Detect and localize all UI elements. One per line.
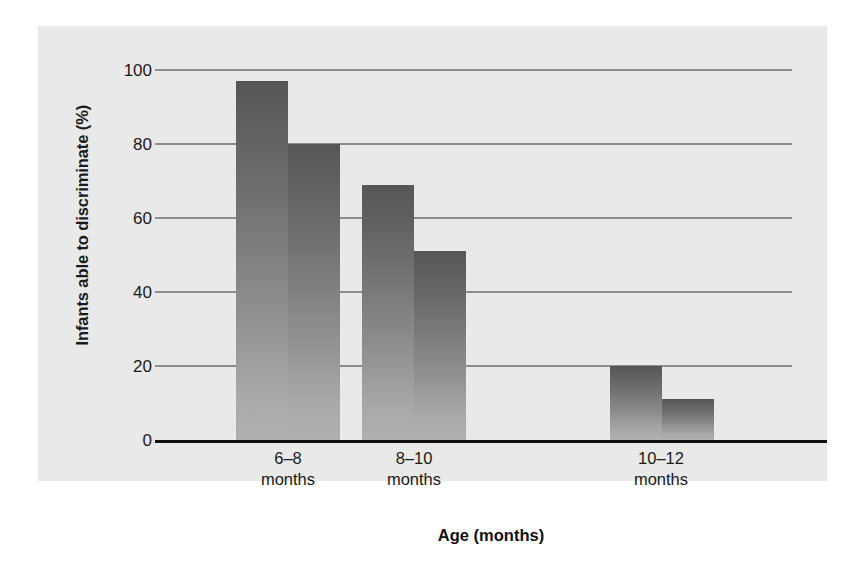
bars-group xyxy=(38,26,827,481)
x-tick-label-2-unit: months xyxy=(576,469,746,490)
bar-g1-s0 xyxy=(362,185,414,440)
y-axis-title: Infants able to discriminate (%) xyxy=(73,106,92,346)
bar-g1-s1 xyxy=(414,251,466,440)
chart-figure: 100806040200 Infants able to discriminat… xyxy=(0,0,847,564)
x-axis-title: Age (months) xyxy=(155,526,827,545)
bar-g2-s0 xyxy=(610,366,662,440)
x-tick-label-1-range: 8–10 xyxy=(329,448,499,469)
bar-g2-s1 xyxy=(662,399,714,440)
x-tick-label-2: 10–12months xyxy=(576,448,746,490)
x-tick-label-1-unit: months xyxy=(329,469,499,490)
bar-g0-s0 xyxy=(236,81,288,440)
x-tick-label-2-range: 10–12 xyxy=(576,448,746,469)
x-tick-label-1: 8–10months xyxy=(329,448,499,490)
plot-panel: 100806040200 Infants able to discriminat… xyxy=(38,26,827,481)
bar-g0-s1 xyxy=(288,144,340,440)
